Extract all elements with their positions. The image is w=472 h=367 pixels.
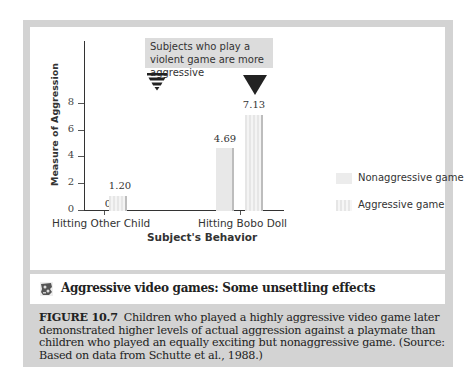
y-tick-label: 4	[64, 149, 74, 160]
y-tick	[78, 130, 84, 131]
legend-swatch	[336, 200, 352, 211]
x-category-label: Hitting Other Child	[52, 217, 150, 229]
y-tick	[78, 103, 84, 104]
y-tick-label: 6	[64, 123, 74, 134]
x-tick	[104, 211, 105, 215]
bar-aggressive-bobo-doll	[245, 115, 263, 211]
y-tick-label: 0	[64, 203, 74, 214]
chart-panel: Subjects who play a violent game are mor…	[30, 27, 445, 270]
x-tick	[240, 211, 241, 215]
figure-caption: FIGURE 10.7Children who played a highly …	[39, 311, 449, 362]
bar-aggressive-hitting-child	[109, 196, 127, 211]
bar-nonaggressive-bobo-doll	[216, 148, 234, 211]
banner-title: Aggressive video games: Some unsettling …	[61, 281, 375, 295]
y-tick-label: 8	[64, 96, 74, 107]
legend-label: Nonaggressive game	[358, 172, 464, 183]
video-game-icon	[40, 282, 53, 296]
y-axis	[84, 41, 85, 211]
y-tick	[78, 210, 84, 211]
x-axis-title: Subject's Behavior	[147, 231, 257, 243]
y-axis-title: Measure of Aggression	[49, 55, 60, 195]
figure-banner: Aggressive video games: Some unsettling …	[30, 274, 445, 304]
down-arrow-icon	[243, 75, 267, 95]
legend-item-nonaggressive: Nonaggressive game	[336, 172, 464, 184]
callout-annotation: Subjects who play a violent game are mor…	[145, 38, 273, 68]
y-tick	[78, 183, 84, 184]
x-category-label: Hitting Bobo Doll	[198, 217, 287, 229]
bar-value-label: 4.69	[210, 133, 240, 144]
striped-arrow-icon	[147, 73, 167, 91]
legend-label: Aggressive game	[358, 199, 444, 210]
figure-label: FIGURE 10.7	[39, 310, 118, 324]
legend-item-aggressive: Aggressive game	[336, 199, 444, 211]
legend-swatch	[336, 173, 352, 184]
y-tick-label: 2	[64, 176, 74, 187]
y-tick	[78, 156, 84, 157]
bar-value-label: 7.13	[239, 99, 269, 110]
bar-value-label: 1.20	[105, 180, 135, 191]
